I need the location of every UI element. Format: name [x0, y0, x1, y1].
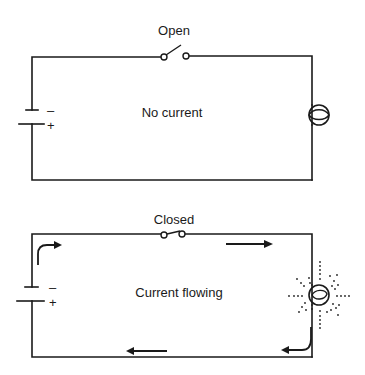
battery-negative-sign: –: [47, 103, 55, 118]
current-arrow-bottom-left-icon: [126, 347, 167, 355]
center-label-no-current: No current: [142, 105, 203, 120]
current-arrow-top-right-icon: [226, 240, 273, 248]
switch-label-open: Open: [158, 23, 190, 38]
current-arrow-bulb-bottom-icon: [281, 327, 311, 354]
wire-top-right: [189, 56, 312, 105]
battery-positive-sign: +: [49, 295, 57, 310]
battery-icon: [17, 287, 44, 301]
switch-open-icon: [161, 45, 189, 60]
closed-circuit: Closed – +: [17, 212, 350, 357]
circuit-diagram: Open – + No current Closed: [0, 0, 365, 375]
switch-closed-icon: [161, 231, 185, 238]
bulb-off-icon: [309, 105, 329, 125]
switch-label-closed: Closed: [154, 212, 194, 227]
center-label-current-flowing: Current flowing: [135, 285, 222, 300]
battery-icon: [19, 110, 44, 124]
wire-bottom: [32, 124, 312, 180]
battery-positive-sign: +: [47, 118, 55, 133]
battery-negative-sign: –: [49, 280, 57, 295]
wire-top-right: [185, 234, 312, 285]
bulb-lit-icon: [309, 285, 329, 305]
open-circuit: Open – + No current: [19, 23, 329, 180]
current-arrow-left-top-icon: [38, 241, 62, 265]
wire-bottom: [32, 301, 312, 357]
